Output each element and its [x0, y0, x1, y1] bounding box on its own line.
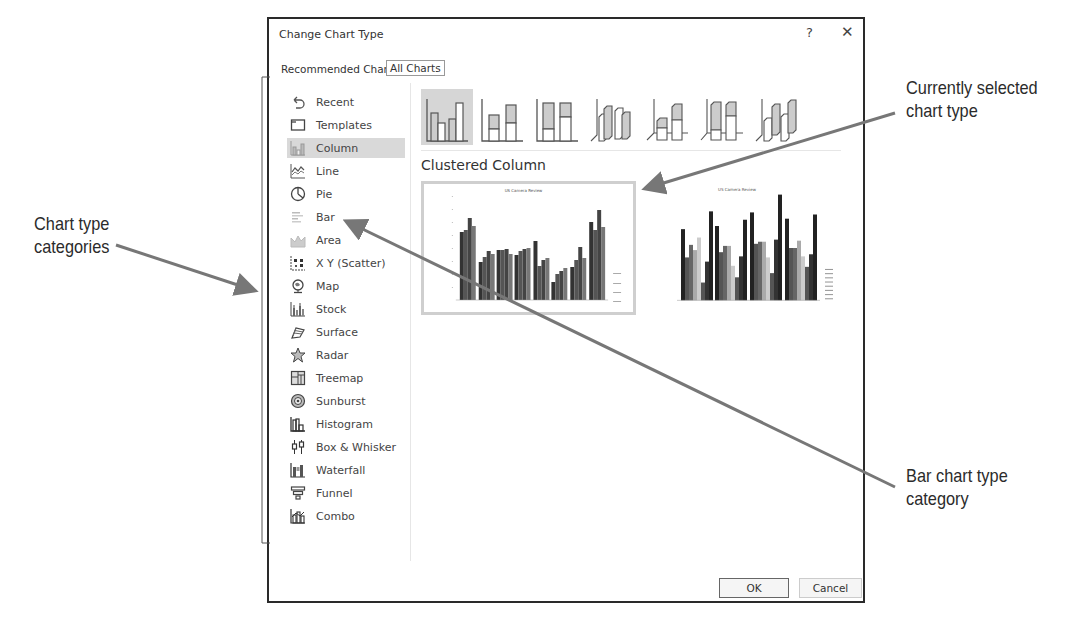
sidebar-item-label: Box & Whisker	[316, 441, 396, 454]
subtype-3d-column[interactable]	[751, 89, 803, 145]
sidebar-item-label: X Y (Scatter)	[316, 257, 386, 270]
ok-button[interactable]: OK	[719, 578, 789, 598]
dialog-title: Change Chart Type	[279, 28, 384, 41]
sidebar-item-scatter[interactable]: X Y (Scatter)	[287, 253, 405, 273]
subtype-3d-100-stacked-column[interactable]	[696, 89, 748, 145]
sidebar-item-label: Stock	[316, 303, 346, 316]
line-chart-icon	[290, 163, 306, 179]
sidebar-item-label: Combo	[316, 510, 355, 523]
change-chart-type-dialog: Change Chart Type ? ✕ Recommended Charts…	[267, 17, 865, 603]
sidebar-item-box-whisker[interactable]: Box & Whisker	[287, 437, 405, 457]
sidebar-item-stock[interactable]: Stock	[287, 299, 405, 319]
sidebar-item-recent[interactable]: Recent	[287, 92, 405, 112]
tab-all-charts[interactable]: All Charts	[386, 60, 445, 76]
help-button[interactable]: ?	[806, 25, 813, 40]
chart-preview-2[interactable]: US Camera Review	[652, 181, 847, 315]
sidebar-item-bar[interactable]: Bar	[287, 207, 405, 227]
recent-icon	[290, 94, 306, 110]
chart-preview-1[interactable]: US Camera Review	[421, 181, 636, 315]
close-button[interactable]: ✕	[841, 23, 854, 41]
sidebar-item-templates[interactable]: Templates	[287, 115, 405, 135]
sidebar-item-label: Column	[316, 142, 358, 155]
waterfall-chart-icon	[290, 462, 306, 478]
stock-chart-icon	[290, 301, 306, 317]
sidebar-item-column[interactable]: Column	[287, 138, 405, 158]
area-chart-icon	[290, 232, 306, 248]
sidebar-item-label: Sunburst	[316, 395, 365, 408]
subtype-100-stacked-column[interactable]	[531, 89, 583, 145]
sidebar-item-label: Radar	[316, 349, 348, 362]
annotation-bar-category: Bar chart type category	[906, 464, 1008, 510]
selected-subtype-label: Clustered Column	[421, 157, 546, 173]
preview-chart-graphic: US Camera Review	[424, 184, 633, 312]
sidebar-item-label: Waterfall	[316, 464, 365, 477]
funnel-chart-icon	[290, 485, 306, 501]
sunburst-chart-icon	[290, 393, 306, 409]
column-chart-icon	[290, 140, 306, 156]
sidebar-item-waterfall[interactable]: Waterfall	[287, 460, 405, 480]
sidebar-divider	[410, 83, 411, 561]
subtype-3d-clustered-column[interactable]	[586, 89, 638, 145]
surface-chart-icon	[290, 324, 306, 340]
subtype-3d-stacked-column[interactable]	[641, 89, 693, 145]
sidebar-item-surface[interactable]: Surface	[287, 322, 405, 342]
sidebar-item-line[interactable]: Line	[287, 161, 405, 181]
sidebar-item-pie[interactable]: Pie	[287, 184, 405, 204]
sidebar-item-radar[interactable]: Radar	[287, 345, 405, 365]
sidebar-item-treemap[interactable]: Treemap	[287, 368, 405, 388]
sidebar-item-histogram[interactable]: Histogram	[287, 414, 405, 434]
sidebar-item-sunburst[interactable]: Sunburst	[287, 391, 405, 411]
sidebar-item-label: Treemap	[316, 372, 363, 385]
templates-icon	[290, 117, 306, 133]
3d-100-stacked-column-icon	[699, 95, 745, 145]
scatter-chart-icon	[290, 255, 306, 271]
stacked-column-icon	[479, 95, 525, 145]
preview-chart-graphic: US Camera Review	[652, 181, 847, 315]
100-stacked-column-icon	[534, 95, 580, 145]
box-whisker-chart-icon	[290, 439, 306, 455]
sidebar-item-label: Templates	[316, 119, 372, 132]
sidebar-item-funnel[interactable]: Funnel	[287, 483, 405, 503]
pie-chart-icon	[290, 186, 306, 202]
3d-stacked-column-icon	[644, 95, 690, 145]
histogram-chart-icon	[290, 416, 306, 432]
bar-chart-icon	[290, 209, 306, 225]
sidebar-item-label: Funnel	[316, 487, 352, 500]
cancel-button[interactable]: Cancel	[799, 578, 862, 598]
sidebar-item-map[interactable]: Map	[287, 276, 405, 296]
sidebar-item-area[interactable]: Area	[287, 230, 405, 250]
tab-recommended-charts[interactable]: Recommended Charts	[281, 63, 398, 75]
sidebar-item-label: Area	[316, 234, 341, 247]
treemap-chart-icon	[290, 370, 306, 386]
sidebar-item-label: Recent	[316, 96, 354, 109]
3d-column-icon	[754, 95, 800, 145]
sidebar-item-label: Bar	[316, 211, 335, 224]
map-chart-icon	[290, 278, 306, 294]
sidebar-item-label: Histogram	[316, 418, 373, 431]
svg-text:US Camera Review: US Camera Review	[505, 188, 543, 193]
sidebar-item-combo[interactable]: Combo	[287, 506, 405, 526]
radar-chart-icon	[290, 347, 306, 363]
svg-text:US Camera Review: US Camera Review	[718, 187, 756, 192]
subtype-clustered-column[interactable]	[421, 89, 473, 145]
sidebar-item-label: Map	[316, 280, 339, 293]
3d-clustered-column-icon	[589, 95, 635, 145]
sidebar-item-label: Pie	[316, 188, 332, 201]
combo-chart-icon	[290, 508, 306, 524]
clustered-column-icon	[424, 95, 470, 145]
subtype-stacked-column[interactable]	[476, 89, 528, 145]
sidebar-item-label: Surface	[316, 326, 358, 339]
sidebar-item-label: Line	[316, 165, 339, 178]
annotation-currently-selected: Currently selected chart type	[906, 76, 1038, 122]
gallery-divider	[421, 150, 841, 151]
annotation-chart-type-categories: Chart type categories	[34, 212, 109, 258]
